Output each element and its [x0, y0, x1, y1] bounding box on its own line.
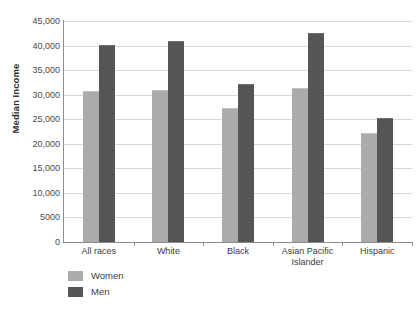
bar-men: [308, 33, 324, 242]
legend-swatch-men: [68, 287, 83, 297]
bar-group: [342, 21, 412, 242]
y-axis-tick-label: 15,000: [2, 163, 60, 173]
y-axis-tick-label: 0: [2, 237, 60, 247]
y-axis-tick-label: 45,000: [2, 16, 60, 26]
x-axis-separator-tick: [412, 242, 413, 246]
y-axis-tick-label: 10,000: [2, 188, 60, 198]
bar-women: [222, 108, 238, 242]
x-axis-category-label: White: [134, 246, 204, 257]
bar-women: [361, 133, 377, 242]
bar-men: [238, 84, 254, 242]
chart-legend: Women Men: [68, 270, 124, 302]
bar-group: [134, 21, 204, 242]
legend-item-men: Men: [68, 286, 124, 297]
legend-item-women: Women: [68, 270, 124, 281]
legend-label-women: Women: [91, 270, 124, 281]
bar-women: [292, 88, 308, 242]
bar-group: [203, 21, 273, 242]
bar-women: [152, 90, 168, 242]
x-axis-category-label: All races: [64, 246, 134, 257]
bar-chart: Median Income 45,00040,00035,00030,00025…: [0, 0, 419, 318]
x-axis-line: [64, 242, 412, 243]
y-axis-tick-label: 35,000: [2, 65, 60, 75]
y-axis-tick-label: 25,000: [2, 114, 60, 124]
y-axis-tick-labels: 45,00040,00035,00030,00025,00020,00015,0…: [0, 21, 60, 242]
bar-men: [99, 45, 115, 242]
x-axis-category-label: Hispanic: [342, 246, 412, 257]
plot-area: [64, 21, 412, 242]
bar-group: [273, 21, 343, 242]
bar-men: [168, 41, 184, 242]
bar-group: [64, 21, 134, 242]
bar-men: [377, 118, 393, 242]
x-axis-category-label: Asian Pacific Islander: [273, 246, 343, 268]
legend-label-men: Men: [91, 286, 109, 297]
x-axis-category-label: Black: [203, 246, 273, 257]
bar-women: [83, 91, 99, 242]
legend-swatch-women: [68, 271, 83, 281]
y-axis-tick-label: 5000: [2, 212, 60, 222]
y-axis-tick-label: 30,000: [2, 90, 60, 100]
y-axis-tick-label: 40,000: [2, 41, 60, 51]
y-axis-tick-label: 20,000: [2, 139, 60, 149]
